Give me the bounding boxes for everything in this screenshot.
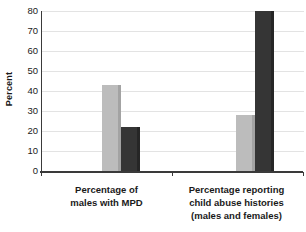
bar-chart: Percent 01020304050607080 Percentage ofm… [0, 0, 306, 232]
bar-light-gray-series-group-0 [102, 85, 121, 171]
bar-dark-gray-series-group-1 [255, 11, 274, 171]
y-tick-label-70: 70 [16, 26, 38, 36]
category-label-1: Percentage reportingchild abuse historie… [170, 184, 303, 222]
category-label-line-2: (males and females) [170, 210, 303, 223]
bar-face [236, 115, 252, 171]
category-label-line-1: males with MPD [44, 197, 169, 210]
bar-side-shade [271, 11, 274, 171]
bar-face [255, 11, 271, 171]
x-axis-tick-1 [172, 172, 173, 176]
bar-side-shade [137, 127, 140, 171]
y-tick-label-0: 0 [16, 166, 38, 176]
y-tick-label-50: 50 [16, 66, 38, 76]
y-axis-title-text: Percent [4, 72, 14, 106]
bar-light-gray-series-group-1 [236, 115, 255, 171]
y-tick-label-80: 80 [16, 6, 38, 16]
x-axis-tick-0 [41, 172, 42, 176]
category-label-0: Percentage ofmales with MPD [44, 184, 169, 210]
y-tick-label-60: 60 [16, 46, 38, 56]
y-tick-label-20: 20 [16, 126, 38, 136]
bar-face [102, 85, 118, 171]
category-label-line-0: Percentage of [44, 184, 169, 197]
plot-area [41, 11, 304, 171]
y-tick-label-40: 40 [16, 86, 38, 96]
category-label-line-1: child abuse histories [170, 197, 303, 210]
bar-face [121, 127, 137, 171]
x-axis-tick-2 [303, 172, 304, 176]
y-tick-label-30: 30 [16, 106, 38, 116]
category-label-line-0: Percentage reporting [170, 184, 303, 197]
bar-dark-gray-series-group-0 [121, 127, 140, 171]
y-axis-tick-labels: 01020304050607080 [16, 11, 38, 171]
y-tick-label-10: 10 [16, 146, 38, 156]
